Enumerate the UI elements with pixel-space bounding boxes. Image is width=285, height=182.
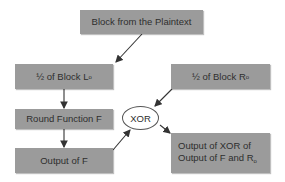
output-f-label: Output of F [40,155,88,167]
arrow-right-to-xor [155,89,172,106]
xor-output-line2: Output of F and R [178,152,254,163]
right-half-label: ½ of Block R [192,71,246,83]
right-half-subscript: o [246,71,249,83]
plaintext-block-node: Block from the Plaintext [80,10,203,34]
left-half-label: ½ of Block L [36,71,88,83]
arrow-plaintext-to-left [116,34,142,62]
xor-output-subscript: o [254,158,257,164]
xor-output-line2-wrap: Output of F and Ro [178,152,257,167]
round-function-label: Round Function F [26,113,102,125]
round-function-node: Round Function F [15,109,113,129]
xor-node: XOR [122,106,159,130]
output-f-node: Output of F [15,148,113,173]
xor-label: XOR [130,113,151,124]
xor-output-node: Output of XOR of Output of F and Ro [171,133,270,173]
right-half-node: ½ of Block Ro [171,64,270,89]
arrow-xor-to-result [160,125,170,133]
xor-output-line1: Output of XOR of [178,140,251,152]
left-half-subscript: o [88,71,91,83]
arrow-output-to-xor [113,130,130,150]
left-half-node: ½ of Block Lo [15,64,113,89]
plaintext-block-label: Block from the Plaintext [92,16,192,28]
